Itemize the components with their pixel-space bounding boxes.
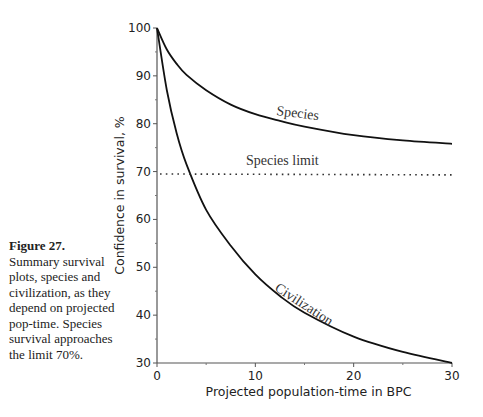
y-tick-label: 70 [136, 165, 151, 179]
species-curve [157, 28, 452, 144]
species-limit-label: Species limit [246, 153, 319, 168]
civilization-label: Civilization [272, 280, 336, 329]
y-tick-label: 90 [136, 69, 151, 83]
y-axis-label: Confidence in survival, % [112, 116, 127, 275]
y-tick-label: 40 [136, 308, 151, 322]
x-tick-label: 10 [248, 369, 263, 383]
survival-chart: 304050607080901000102030Projected popula… [0, 0, 483, 417]
y-tick-label: 30 [136, 356, 151, 370]
y-tick-label: 50 [136, 260, 151, 274]
x-axis-label: Projected population-time in BPC [206, 384, 412, 399]
x-tick-label: 20 [346, 369, 361, 383]
y-tick-label: 60 [136, 212, 151, 226]
y-tick-label: 100 [128, 21, 151, 35]
y-tick-label: 80 [136, 117, 151, 131]
species-label: Species [276, 103, 320, 123]
plot-labels: SpeciesSpecies limitCivilization [246, 103, 336, 328]
species-limit-line [160, 174, 452, 175]
x-tick-label: 0 [153, 369, 161, 383]
x-tick-label: 30 [444, 369, 459, 383]
